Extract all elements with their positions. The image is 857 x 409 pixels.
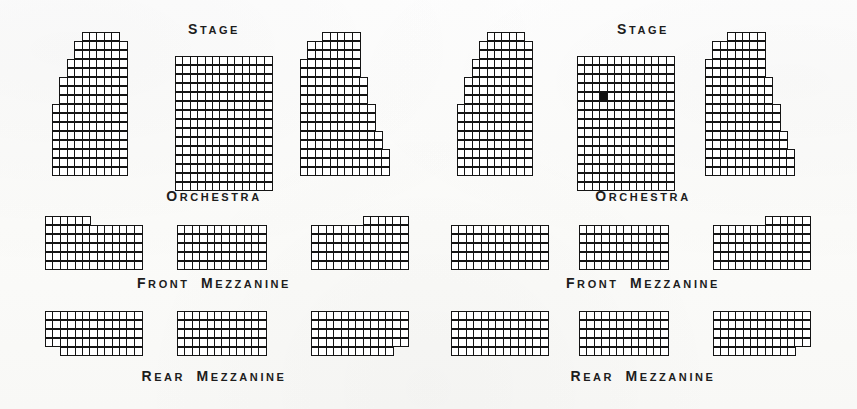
seat[interactable] [134, 243, 143, 252]
seat[interactable] [666, 137, 675, 146]
seat[interactable] [772, 113, 781, 122]
seat[interactable] [524, 158, 533, 167]
seat[interactable] [666, 83, 675, 92]
seat[interactable] [524, 122, 533, 131]
seat[interactable] [660, 243, 669, 252]
seat[interactable] [524, 167, 533, 176]
seat[interactable] [540, 338, 549, 347]
seat[interactable] [764, 95, 773, 104]
seat[interactable] [524, 113, 533, 122]
seat[interactable] [666, 56, 675, 65]
seat[interactable] [786, 167, 795, 176]
seat[interactable] [134, 311, 143, 320]
seat[interactable] [352, 41, 361, 50]
seat[interactable] [660, 225, 669, 234]
seat[interactable] [524, 50, 533, 59]
seat[interactable] [258, 329, 267, 338]
seat[interactable] [381, 149, 390, 158]
seat[interactable] [524, 77, 533, 86]
seat[interactable] [660, 311, 669, 320]
seat[interactable] [119, 50, 128, 59]
seat[interactable] [757, 59, 766, 68]
seat[interactable] [524, 104, 533, 113]
seat[interactable] [757, 41, 766, 50]
seat[interactable] [264, 74, 273, 83]
seat[interactable] [779, 140, 788, 149]
seat[interactable] [119, 113, 128, 122]
seat[interactable] [352, 50, 361, 59]
seat[interactable] [385, 347, 394, 356]
seat[interactable] [540, 261, 549, 270]
seat[interactable] [264, 164, 273, 173]
seat[interactable] [119, 131, 128, 140]
seat[interactable] [524, 140, 533, 149]
seat[interactable] [400, 320, 409, 329]
seat[interactable] [381, 158, 390, 167]
seat[interactable] [119, 140, 128, 149]
seat[interactable] [352, 68, 361, 77]
seat[interactable] [258, 261, 267, 270]
seat[interactable] [524, 68, 533, 77]
seat[interactable] [540, 225, 549, 234]
seat[interactable] [666, 146, 675, 155]
seat[interactable] [119, 68, 128, 77]
seat[interactable] [666, 65, 675, 74]
seat[interactable] [264, 101, 273, 110]
seat[interactable] [516, 32, 525, 41]
seat[interactable] [258, 347, 267, 356]
seat[interactable] [264, 56, 273, 65]
seat[interactable] [400, 261, 409, 270]
seat[interactable] [666, 164, 675, 173]
seat[interactable] [524, 95, 533, 104]
seat[interactable] [352, 59, 361, 68]
seat[interactable] [660, 338, 669, 347]
seat[interactable] [258, 234, 267, 243]
seat[interactable] [359, 77, 368, 86]
seat[interactable] [666, 173, 675, 182]
seat[interactable] [400, 329, 409, 338]
seat[interactable] [540, 329, 549, 338]
seat[interactable] [367, 113, 376, 122]
seat[interactable] [264, 146, 273, 155]
seat[interactable] [134, 234, 143, 243]
seat[interactable] [786, 149, 795, 158]
seat[interactable] [660, 320, 669, 329]
seat[interactable] [258, 320, 267, 329]
seat[interactable] [119, 77, 128, 86]
seat[interactable] [666, 128, 675, 137]
seat[interactable] [374, 140, 383, 149]
seat[interactable] [119, 149, 128, 158]
seat[interactable] [359, 86, 368, 95]
seat[interactable] [772, 104, 781, 113]
seat[interactable] [134, 338, 143, 347]
seat[interactable] [540, 252, 549, 261]
seat[interactable] [258, 252, 267, 261]
seat[interactable] [802, 261, 811, 270]
seat[interactable] [400, 338, 409, 347]
seat[interactable] [540, 243, 549, 252]
seat[interactable] [119, 158, 128, 167]
seat[interactable] [400, 311, 409, 320]
seat[interactable] [264, 155, 273, 164]
seat[interactable] [400, 234, 409, 243]
seat[interactable] [802, 252, 811, 261]
seat[interactable] [660, 261, 669, 270]
seat[interactable] [757, 68, 766, 77]
seat[interactable] [802, 329, 811, 338]
seat[interactable] [666, 155, 675, 164]
seat[interactable] [264, 83, 273, 92]
seat[interactable] [660, 234, 669, 243]
seat[interactable] [134, 320, 143, 329]
seat[interactable] [666, 119, 675, 128]
seat[interactable] [82, 216, 91, 225]
seat[interactable] [540, 311, 549, 320]
seat[interactable] [802, 338, 811, 347]
seat[interactable] [119, 95, 128, 104]
seat[interactable] [134, 329, 143, 338]
seat[interactable] [264, 137, 273, 146]
seat[interactable] [666, 101, 675, 110]
seat[interactable] [757, 32, 766, 41]
seat[interactable] [802, 216, 811, 225]
seat[interactable] [524, 59, 533, 68]
seat[interactable] [119, 59, 128, 68]
